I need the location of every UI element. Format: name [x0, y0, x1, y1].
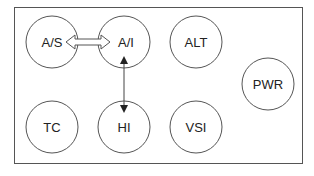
instrument-diagram: A/S A/I ALT PWR TC HI VSI	[0, 0, 314, 176]
label-tc: TC	[43, 120, 60, 135]
label-pwr: PWR	[253, 77, 283, 92]
ai-hi-double-arrow-icon	[120, 56, 128, 113]
label-alt: ALT	[185, 35, 208, 50]
as-ai-double-arrow-icon	[66, 35, 110, 49]
label-vsi: VSI	[186, 120, 207, 135]
label-hi: HI	[118, 120, 131, 135]
label-as: A/S	[42, 35, 63, 50]
label-ai: A/I	[118, 35, 134, 50]
